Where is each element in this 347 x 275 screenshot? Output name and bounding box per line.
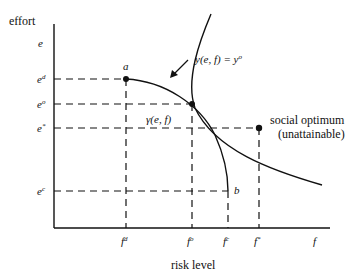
social-optimum-note: (unattainable) bbox=[278, 128, 345, 140]
tick-ec: ec bbox=[37, 186, 45, 197]
tick-sup: * bbox=[42, 122, 46, 130]
y-axis-var: e bbox=[38, 38, 43, 49]
social-optimum-label: social optimum bbox=[270, 114, 344, 126]
indifference-label-text: y(e, f) = y bbox=[195, 53, 238, 65]
tick-sup: d bbox=[124, 235, 128, 243]
point-social-optimum bbox=[256, 125, 262, 131]
tick-sup: c bbox=[42, 185, 45, 193]
x-axis-var: f bbox=[313, 236, 316, 247]
tick-sup: c bbox=[226, 235, 229, 243]
point-a bbox=[123, 76, 129, 82]
point-optimum bbox=[189, 101, 195, 107]
frontier-label: γ(e, f) bbox=[146, 114, 171, 125]
tick-sup: o bbox=[42, 98, 46, 106]
tick-sup: * bbox=[257, 235, 261, 243]
label-a: a bbox=[123, 61, 129, 72]
tick-fstar: f* bbox=[254, 236, 261, 247]
label-b: b bbox=[234, 185, 240, 196]
y-axis-title: effort bbox=[9, 15, 35, 27]
tick-fo: fo bbox=[187, 236, 194, 247]
tick-ed: ed bbox=[37, 74, 45, 85]
x-axis-title: risk level bbox=[171, 259, 215, 271]
arrow-line bbox=[174, 60, 188, 74]
indifference-label-sup: o bbox=[238, 53, 242, 61]
tick-sup: o bbox=[190, 235, 194, 243]
tick-fc: fc bbox=[223, 236, 229, 247]
indifference-label: y(e, f) = yo bbox=[195, 54, 242, 65]
tick-sup: d bbox=[42, 73, 46, 81]
indifference-curve bbox=[192, 14, 322, 185]
frontier-curve bbox=[126, 79, 228, 191]
tick-fd: fd bbox=[121, 236, 128, 247]
tick-eo: eo bbox=[37, 99, 45, 110]
tick-estar: e* bbox=[37, 123, 45, 134]
